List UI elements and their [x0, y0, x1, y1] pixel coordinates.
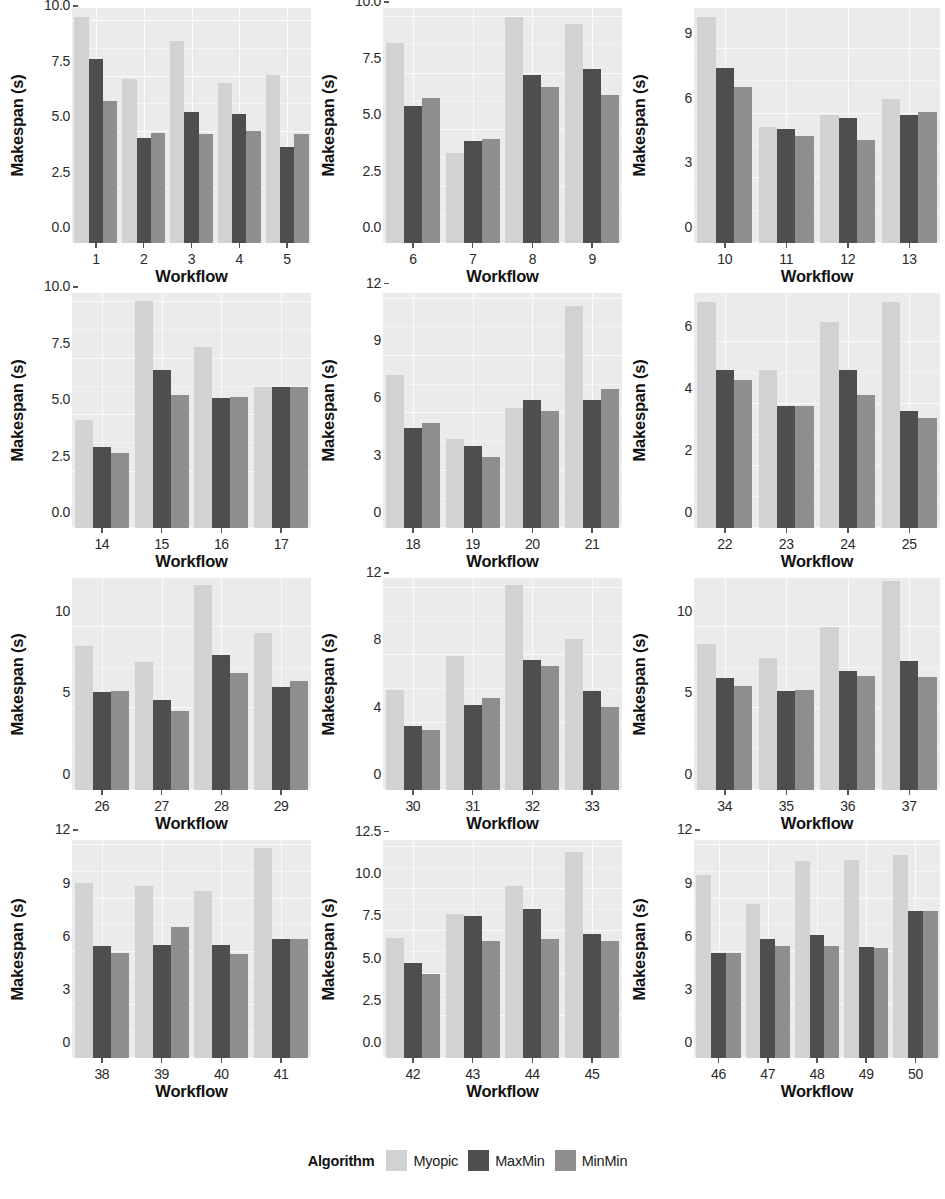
bar-minmin[interactable]: [230, 673, 248, 790]
bar-minmin[interactable]: [482, 457, 500, 528]
bar-myopic[interactable]: [254, 848, 272, 1058]
bar-maxmin[interactable]: [777, 691, 795, 790]
bar-minmin[interactable]: [422, 730, 440, 790]
legend-item-myopic[interactable]: Myopic: [386, 1150, 458, 1171]
bar-minmin[interactable]: [422, 974, 440, 1058]
bar-minmin[interactable]: [541, 411, 559, 529]
bar-maxmin[interactable]: [93, 692, 111, 790]
bar-myopic[interactable]: [266, 75, 280, 243]
bar-minmin[interactable]: [795, 406, 813, 528]
bar-minmin[interactable]: [601, 95, 619, 243]
bar-maxmin[interactable]: [404, 106, 422, 243]
bar-minmin[interactable]: [482, 698, 500, 790]
bar-maxmin[interactable]: [839, 370, 857, 528]
bar-myopic[interactable]: [254, 387, 272, 528]
bar-maxmin[interactable]: [404, 726, 422, 790]
bar-myopic[interactable]: [505, 585, 523, 790]
bar-maxmin[interactable]: [583, 69, 601, 243]
bar-myopic[interactable]: [505, 408, 523, 528]
bar-maxmin[interactable]: [272, 387, 290, 528]
bar-minmin[interactable]: [918, 112, 936, 244]
bar-minmin[interactable]: [111, 953, 129, 1058]
bar-myopic[interactable]: [75, 420, 93, 528]
bar-myopic[interactable]: [565, 306, 583, 528]
bar-myopic[interactable]: [820, 627, 838, 790]
bar-maxmin[interactable]: [777, 129, 795, 243]
bar-maxmin[interactable]: [184, 112, 198, 243]
bar-myopic[interactable]: [697, 644, 715, 790]
bar-myopic[interactable]: [194, 585, 212, 790]
bar-minmin[interactable]: [734, 87, 752, 243]
bar-maxmin[interactable]: [900, 661, 918, 790]
bar-myopic[interactable]: [746, 904, 761, 1058]
bar-myopic[interactable]: [386, 938, 404, 1058]
bar-maxmin[interactable]: [153, 700, 171, 791]
bar-minmin[interactable]: [111, 453, 129, 528]
bar-minmin[interactable]: [199, 134, 213, 243]
bar-minmin[interactable]: [230, 397, 248, 528]
bar-maxmin[interactable]: [232, 114, 246, 243]
bar-myopic[interactable]: [194, 347, 212, 528]
bar-maxmin[interactable]: [777, 406, 795, 528]
bar-myopic[interactable]: [505, 17, 523, 243]
bar-minmin[interactable]: [290, 939, 308, 1058]
bar-maxmin[interactable]: [280, 147, 294, 243]
bar-maxmin[interactable]: [900, 115, 918, 243]
bar-minmin[interactable]: [541, 87, 559, 243]
bar-minmin[interactable]: [422, 98, 440, 243]
bar-maxmin[interactable]: [464, 705, 482, 790]
bar-minmin[interactable]: [726, 953, 741, 1058]
bar-maxmin[interactable]: [908, 911, 923, 1058]
bar-myopic[interactable]: [696, 875, 711, 1058]
bar-myopic[interactable]: [565, 24, 583, 243]
bar-minmin[interactable]: [103, 101, 117, 243]
bar-myopic[interactable]: [505, 886, 523, 1058]
bar-minmin[interactable]: [171, 395, 189, 528]
bar-minmin[interactable]: [874, 948, 889, 1058]
bar-myopic[interactable]: [122, 79, 136, 243]
bar-minmin[interactable]: [918, 418, 936, 528]
bar-myopic[interactable]: [446, 656, 464, 790]
bar-myopic[interactable]: [135, 886, 153, 1058]
bar-myopic[interactable]: [75, 883, 93, 1058]
legend-item-minmin[interactable]: MinMin: [555, 1150, 628, 1171]
bar-maxmin[interactable]: [859, 947, 874, 1058]
bar-maxmin[interactable]: [583, 400, 601, 528]
bar-myopic[interactable]: [565, 639, 583, 790]
bar-myopic[interactable]: [697, 302, 715, 528]
bar-minmin[interactable]: [294, 134, 308, 243]
bar-maxmin[interactable]: [212, 945, 230, 1058]
bar-myopic[interactable]: [135, 301, 153, 528]
bar-minmin[interactable]: [857, 140, 875, 243]
bar-myopic[interactable]: [882, 99, 900, 243]
bar-myopic[interactable]: [759, 370, 777, 528]
bar-minmin[interactable]: [601, 707, 619, 790]
bar-maxmin[interactable]: [716, 68, 734, 243]
bar-maxmin[interactable]: [212, 655, 230, 790]
bar-minmin[interactable]: [171, 711, 189, 790]
bar-myopic[interactable]: [565, 852, 583, 1058]
bar-maxmin[interactable]: [900, 411, 918, 529]
bar-minmin[interactable]: [857, 395, 875, 528]
bar-maxmin[interactable]: [523, 400, 541, 528]
bar-myopic[interactable]: [194, 891, 212, 1058]
bar-minmin[interactable]: [857, 676, 875, 790]
bar-maxmin[interactable]: [464, 446, 482, 528]
bar-myopic[interactable]: [218, 83, 232, 243]
bar-minmin[interactable]: [601, 389, 619, 528]
bar-maxmin[interactable]: [464, 916, 482, 1058]
bar-minmin[interactable]: [151, 133, 165, 243]
bar-maxmin[interactable]: [93, 447, 111, 528]
bar-myopic[interactable]: [254, 633, 272, 790]
bar-myopic[interactable]: [446, 439, 464, 528]
bar-maxmin[interactable]: [153, 370, 171, 528]
bar-minmin[interactable]: [795, 690, 813, 790]
bar-minmin[interactable]: [541, 939, 559, 1058]
bar-maxmin[interactable]: [839, 671, 857, 790]
bar-myopic[interactable]: [386, 375, 404, 528]
bar-maxmin[interactable]: [523, 660, 541, 790]
bar-myopic[interactable]: [386, 690, 404, 790]
bar-minmin[interactable]: [775, 946, 790, 1058]
bar-minmin[interactable]: [482, 139, 500, 243]
bar-maxmin[interactable]: [89, 59, 103, 243]
